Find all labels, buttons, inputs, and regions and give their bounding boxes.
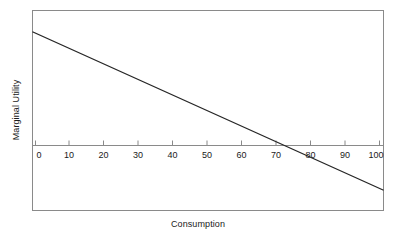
marginal-utility-line xyxy=(33,32,383,190)
y-axis-title: Marginal Utility xyxy=(11,80,21,141)
x-axis-ticks xyxy=(36,141,380,146)
chart-figure: 0 10 20 30 40 50 60 70 80 90 100 Margina… xyxy=(0,0,396,241)
x-axis-title: Consumption xyxy=(0,219,396,229)
plot-area xyxy=(32,10,384,211)
